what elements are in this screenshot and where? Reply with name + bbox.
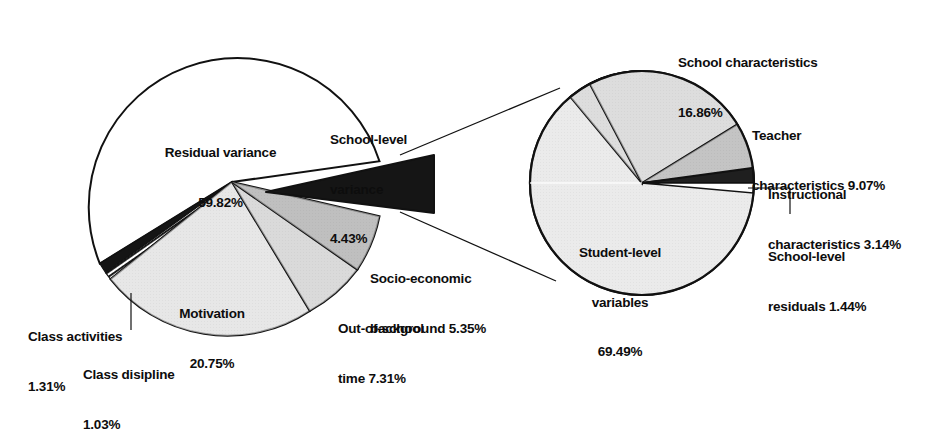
label-student-level-variables-line3: 69.49%	[555, 344, 685, 361]
label-school-level-residuals: School-level residuals 1.44%	[768, 216, 938, 348]
label-school-characteristics-line1: School characteristics	[678, 55, 868, 72]
label-socio-economic-background-line1: Socio-economic	[370, 271, 520, 288]
label-school-level-residuals-line1: School-level	[768, 249, 938, 266]
label-class-disipline: Class disipline 1.03%	[83, 334, 223, 433]
label-school-level-variance-line2: variance	[330, 182, 450, 199]
label-out-of-school-time-line1: Out-of-school	[338, 321, 478, 338]
label-class-disipline-line2: 1.03%	[83, 417, 223, 433]
label-class-disipline-line1: Class disipline	[83, 367, 223, 384]
label-school-level-variance-line1: School-level	[330, 132, 450, 149]
label-teacher-characteristics-line1: Teacher	[752, 128, 941, 145]
label-residual-variance: Residual variance 59.82%	[128, 112, 313, 244]
label-out-of-school-time: Out-of-school time 7.31%	[338, 288, 478, 420]
label-student-level-variables-line2: variables	[555, 295, 685, 312]
label-out-of-school-time-line2: time 7.31%	[338, 371, 478, 388]
label-residual-variance-line2: 59.82%	[128, 195, 313, 212]
label-motivation-line1: Motivation	[152, 306, 272, 323]
label-student-level-variables: Student-level variables 69.49%	[555, 212, 685, 394]
label-residual-variance-line1: Residual variance	[128, 145, 313, 162]
label-student-level-variables-line1: Student-level	[555, 245, 685, 262]
label-school-level-residuals-line2: residuals 1.44%	[768, 299, 938, 316]
label-instructional-characteristics-line1: Instructional	[768, 187, 941, 204]
